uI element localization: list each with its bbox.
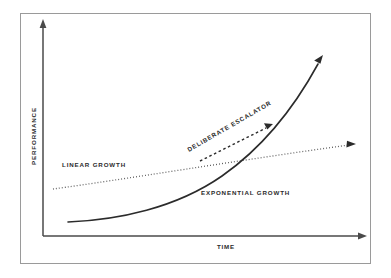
figure-border xyxy=(21,14,371,264)
linear-growth-label: LINEAR GROWTH xyxy=(62,161,126,168)
y-axis-label: PERFORMANCE xyxy=(30,107,37,165)
growth-chart-canvas: PERFORMANCE TIME LINEAR GROWTH EXPONENTI… xyxy=(0,0,391,278)
chart-figure: PERFORMANCE TIME LINEAR GROWTH EXPONENTI… xyxy=(0,0,391,278)
exponential-growth-label: EXPONENTIAL GROWTH xyxy=(201,189,290,196)
x-axis-label: TIME xyxy=(217,243,235,250)
